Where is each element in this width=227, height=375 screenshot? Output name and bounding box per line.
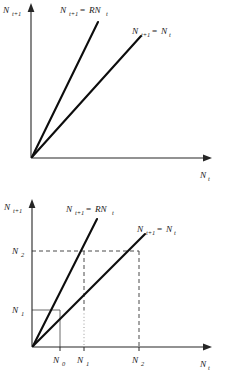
x-axis-arrowhead (203, 155, 212, 162)
svg-text:N: N (11, 246, 19, 256)
svg-text:N: N (2, 5, 10, 15)
replacement-line-label: N t+1 = N t (131, 26, 171, 38)
y-axis-label: N t+1 (3, 202, 22, 214)
x-axis-label: N t (199, 170, 210, 182)
svg-text:t: t (169, 31, 171, 38)
panel-top: N t+1 N t N t+1 = RN t N t+1 = N t (0, 0, 227, 190)
svg-text:N: N (199, 170, 207, 180)
svg-text:N: N (131, 355, 139, 365)
svg-text:t: t (174, 229, 176, 236)
geometric-growth-line-label: N t+1 = RN t (59, 5, 108, 17)
svg-text:N: N (199, 359, 207, 369)
y-tick-label-n1: N 1 (11, 305, 24, 317)
y-tick-label-n2: N 2 (11, 246, 25, 258)
svg-text:N: N (3, 202, 11, 212)
x-tick-label-n2: N 2 (131, 355, 145, 367)
svg-text:t+1: t+1 (69, 10, 78, 17)
svg-text:t: t (208, 175, 210, 182)
svg-text:N: N (52, 355, 60, 365)
svg-text:2: 2 (21, 251, 25, 258)
svg-text:1: 1 (21, 310, 24, 317)
geometric-growth-line (33, 219, 97, 346)
svg-text:=: = (157, 224, 162, 234)
svg-text:t+1: t+1 (13, 207, 22, 214)
svg-text:t+1: t+1 (141, 31, 150, 38)
x-tick-label-n0: N 0 (52, 355, 66, 367)
svg-text:2: 2 (141, 360, 145, 367)
svg-text:N: N (65, 204, 73, 214)
svg-text:=: = (86, 204, 91, 214)
svg-text:0: 0 (62, 360, 66, 367)
svg-text:=: = (152, 26, 157, 36)
svg-text:t+1: t+1 (146, 229, 155, 236)
y-axis-arrowhead (29, 199, 36, 208)
svg-text:N: N (136, 224, 144, 234)
panel-bottom: N t+1 N t N 2 N 1 N 0 N 1 N 2 (0, 190, 227, 375)
x-axis-label: N t (199, 359, 210, 371)
x-axis-arrowhead (203, 344, 212, 351)
svg-text:t: t (112, 209, 114, 216)
geometric-growth-line-label: N t+1 = RN t (65, 204, 114, 216)
svg-text:=: = (80, 5, 85, 15)
replacement-line-label: N t+1 = N t (136, 224, 176, 236)
svg-text:N: N (11, 305, 19, 315)
y-axis-label: N t+1 (2, 5, 21, 17)
svg-text:N: N (59, 5, 67, 15)
x-tick-label-n1: N 1 (76, 355, 89, 367)
y-axis-arrowhead (28, 3, 35, 12)
svg-text:N: N (160, 26, 168, 36)
figure-root: N t+1 N t N t+1 = RN t N t+1 = N t (0, 0, 227, 375)
svg-text:t: t (106, 10, 108, 17)
geometric-growth-line (32, 22, 98, 157)
svg-text:t+1: t+1 (12, 10, 21, 17)
svg-text:1: 1 (86, 360, 89, 367)
svg-text:N: N (165, 224, 173, 234)
svg-text:t+1: t+1 (75, 209, 84, 216)
svg-text:t: t (208, 364, 210, 371)
svg-text:RN: RN (88, 5, 102, 15)
svg-text:N: N (131, 26, 139, 36)
svg-text:N: N (76, 355, 84, 365)
svg-text:RN: RN (94, 204, 108, 214)
replacement-line (32, 36, 141, 157)
